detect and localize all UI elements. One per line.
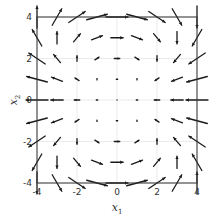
field-arrow — [116, 79, 117, 80]
x-tick-label: -2 — [73, 187, 82, 197]
field-arrow — [137, 120, 138, 121]
field-arrow — [52, 77, 63, 82]
y-tick-label: 0 — [26, 95, 32, 105]
field-arrow — [172, 118, 183, 123]
field-arrow — [97, 120, 98, 121]
y-tick-label: 4 — [26, 12, 32, 22]
field-arrow — [136, 100, 137, 101]
y-tick-label: -4 — [23, 178, 32, 188]
field-arrow — [55, 32, 58, 44]
field-arrow — [51, 98, 63, 101]
y-axis-label: x2 — [7, 95, 22, 106]
field-arrow — [116, 99, 117, 100]
field-arrow — [132, 36, 143, 41]
field-arrow — [175, 32, 178, 44]
field-arrow — [116, 120, 117, 121]
x-tick-label: 4 — [194, 187, 200, 197]
y-tick-label: 2 — [26, 54, 32, 64]
field-arrow — [92, 160, 103, 165]
field-arrow — [175, 156, 178, 168]
field-arrow — [52, 119, 63, 124]
x-axis-label: x1 — [112, 201, 123, 216]
x-tick-label: 0 — [114, 187, 120, 197]
x-tick-label: -4 — [33, 187, 42, 197]
quiver-plot: -4-2024-4-2024 x1 x2 — [0, 0, 210, 220]
field-arrow — [137, 79, 138, 80]
field-arrow — [172, 77, 183, 82]
axis-ticks: -4-2024-4-2024 — [23, 12, 200, 197]
field-arrow — [55, 156, 58, 168]
field-arrow — [132, 160, 143, 165]
x-tick-label: 2 — [154, 187, 160, 197]
field-arrow — [92, 35, 103, 40]
y-tick-label: -2 — [23, 137, 32, 147]
field-arrow — [171, 98, 183, 101]
field-arrow — [97, 79, 98, 80]
field-arrow — [96, 100, 97, 101]
